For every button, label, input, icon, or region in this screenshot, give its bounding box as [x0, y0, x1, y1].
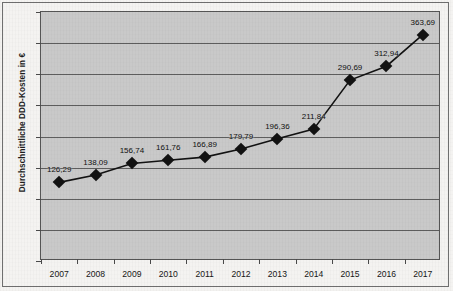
data-point-marker: [89, 169, 102, 182]
data-point-marker: [53, 176, 66, 189]
data-point-label: 179,79: [229, 132, 253, 141]
data-point-label: 363,69: [411, 18, 435, 27]
data-point-marker: [235, 143, 248, 156]
data-point-label: 126,29: [47, 165, 71, 174]
data-point-marker: [380, 60, 393, 73]
data-point-label: 290,69: [338, 63, 362, 72]
chart-figure: Durchschnittliche DDD-Kosten in € 050100…: [0, 0, 453, 291]
data-point-label: 161,76: [156, 143, 180, 152]
data-point-label: 211,84: [302, 112, 326, 121]
data-point-marker: [344, 74, 357, 87]
data-point-label: 166,89: [192, 140, 216, 149]
plot-area: 050100150200250300350400 200720082009201…: [40, 11, 440, 260]
data-point-label: 138,09: [83, 158, 107, 167]
x-axis-tick-label: 2017: [393, 269, 453, 279]
data-point-label: 312,94: [374, 49, 398, 58]
data-point-marker: [416, 28, 429, 41]
y-axis-title: Durchschnittliche DDD-Kosten in €: [18, 13, 27, 233]
data-point-marker: [271, 132, 284, 145]
data-point-marker: [126, 157, 139, 170]
data-point-marker: [307, 123, 320, 136]
series-markers: 126,29138,09156,74161,76166,89179,79196,…: [41, 12, 439, 259]
data-point-marker: [162, 154, 175, 167]
data-point-marker: [198, 151, 211, 164]
data-point-label: 196,36: [265, 122, 289, 131]
data-point-label: 156,74: [120, 146, 144, 155]
